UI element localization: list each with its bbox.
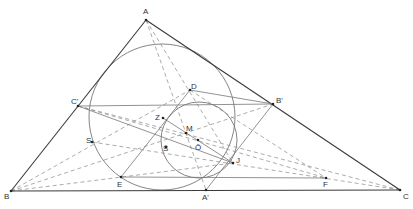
label-Sb: S̄ [163, 144, 168, 153]
incircle-large [89, 44, 235, 190]
point-J [232, 162, 235, 165]
label-S: S [86, 136, 91, 145]
point-C [399, 189, 402, 192]
label-B: B [4, 192, 9, 201]
label-D: D [191, 82, 197, 91]
label-F: F [323, 180, 328, 189]
dashed-line-D-F [190, 90, 326, 178]
line-Bp-Ap [206, 104, 273, 190]
point-A [145, 19, 148, 22]
geometry-diagram: ABCC'B'DZMSS̄ŌJEFA' [0, 0, 413, 209]
line-E-F [121, 177, 326, 178]
solid-lines-layer [11, 20, 400, 191]
dashed-lines-layer [11, 20, 400, 191]
point-Ob [197, 139, 200, 142]
line-D-E [121, 90, 190, 177]
label-Ap: A' [202, 193, 209, 202]
point-E [120, 176, 123, 179]
label-J: J [236, 156, 240, 165]
dashed-line-C-S [92, 142, 400, 190]
label-Cp: C' [71, 97, 79, 106]
label-C: C [403, 192, 409, 201]
label-M: M [186, 124, 193, 133]
label-Ob: Ō [195, 143, 201, 152]
label-A: A [143, 7, 149, 16]
point-Ap [205, 189, 208, 192]
point-F [325, 177, 328, 180]
label-E: E [117, 180, 122, 189]
line-Cp-Bp [78, 104, 273, 106]
point-B [10, 190, 13, 193]
label-Z: Z [155, 113, 160, 122]
point-Bp [272, 103, 275, 106]
label-Bp: B' [276, 96, 283, 105]
diagram-svg: ABCC'B'DZMSS̄ŌJEFA' [0, 0, 413, 209]
point-Z [162, 117, 165, 120]
